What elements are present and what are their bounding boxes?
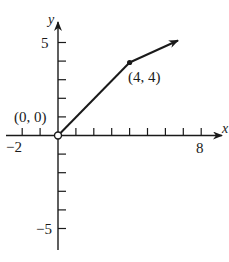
tick-label-neg5: −5 xyxy=(36,221,52,237)
filled-dot-4-4 xyxy=(127,60,132,65)
point-label-origin: (0, 0) xyxy=(14,109,47,126)
x-ticks xyxy=(22,128,201,136)
segment-origin-to-4-4 xyxy=(61,63,130,134)
tick-label-8: 8 xyxy=(196,140,204,156)
graph-canvas: y x 5 −5 −2 8 (0, 0) (4, 4) xyxy=(0,0,229,262)
open-circle-origin xyxy=(55,132,62,139)
ray-from-4-4 xyxy=(130,41,178,63)
x-axis-label: x xyxy=(221,121,229,136)
tick-label-5: 5 xyxy=(41,35,49,51)
point-label-4-4: (4, 4) xyxy=(128,69,161,86)
y-axis-label: y xyxy=(46,12,55,27)
tick-label-neg2: −2 xyxy=(6,139,22,155)
piecewise-graph: y x 5 −5 −2 8 (0, 0) (4, 4) xyxy=(0,0,229,262)
